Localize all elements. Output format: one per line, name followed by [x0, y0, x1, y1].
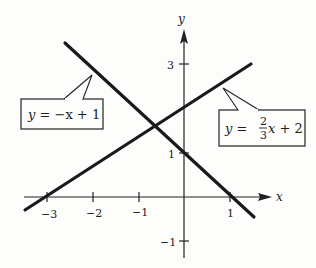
linear-equations-graph: x y −3 −2 −1 1 3 1 −1 y = −x + 1 y = — [0, 0, 316, 268]
y-tick-label: −1 — [160, 236, 176, 249]
y-tick-label: 3 — [167, 59, 174, 72]
x-tick-label: −2 — [86, 207, 102, 220]
x-tick-label: 1 — [227, 207, 234, 220]
y-axis-label: y — [177, 12, 185, 26]
callout-eq2: y = 2 3 x + 2 — [219, 88, 305, 146]
fraction-denominator: 3 — [260, 129, 267, 142]
y-tick-label: 1 — [168, 148, 175, 161]
equation-label: y = −x + 1 — [27, 107, 100, 122]
fraction-numerator: 2 — [260, 115, 267, 128]
x-tick-label: −3 — [41, 208, 57, 221]
equation-rest: x + 2 — [268, 121, 303, 136]
equation-label: y = — [224, 121, 247, 136]
x-tick-label: −1 — [132, 206, 148, 219]
x-axis-arrow-icon — [258, 193, 272, 201]
x-axis-label: x — [276, 190, 283, 204]
callout-eq1: y = −x + 1 — [21, 75, 103, 129]
line-y-two-thirds-x-plus-2 — [25, 64, 251, 210]
